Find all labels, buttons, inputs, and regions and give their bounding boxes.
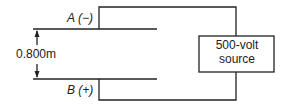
- source-label: 500-volt source: [199, 38, 275, 66]
- wire-top: [99, 7, 236, 36]
- arrowhead-up-icon: [35, 30, 40, 37]
- wire-bottom: [99, 72, 236, 100]
- plate-b-label: B (+): [67, 83, 93, 97]
- source-label-line2: source: [199, 52, 275, 66]
- plate-a-label: A (−): [67, 11, 93, 25]
- arrowhead-down-icon: [35, 71, 40, 78]
- separation-label: 0.800m: [16, 47, 56, 61]
- source-label-line1: 500-volt: [199, 38, 275, 52]
